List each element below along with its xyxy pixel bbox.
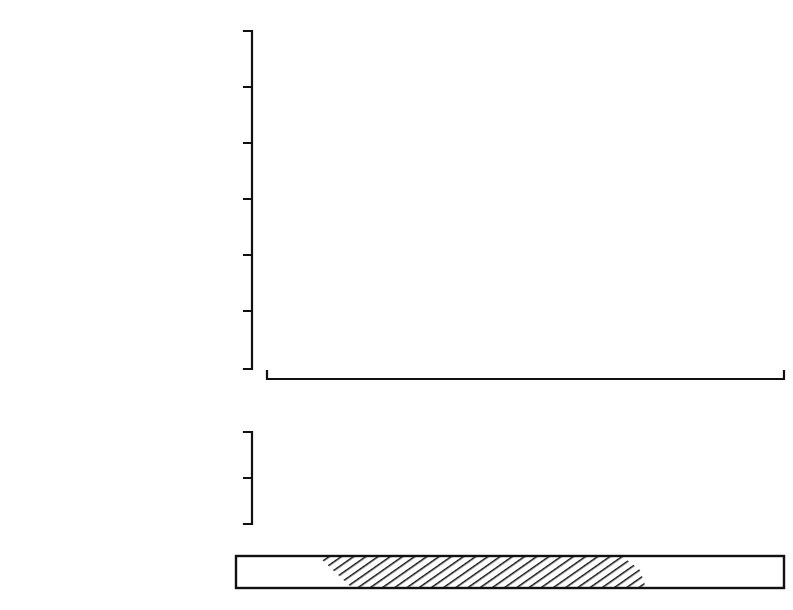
top-x-axis <box>267 371 784 379</box>
national-bread-hatch <box>318 556 646 588</box>
fibre-panel <box>243 432 252 524</box>
top-y-ticks <box>243 31 252 369</box>
top-panel <box>243 31 784 379</box>
bread-type-bar <box>236 556 784 588</box>
diabetes-fibre-figure <box>0 0 793 610</box>
figure-root <box>0 0 793 610</box>
fibre-y-ticks <box>243 432 252 524</box>
